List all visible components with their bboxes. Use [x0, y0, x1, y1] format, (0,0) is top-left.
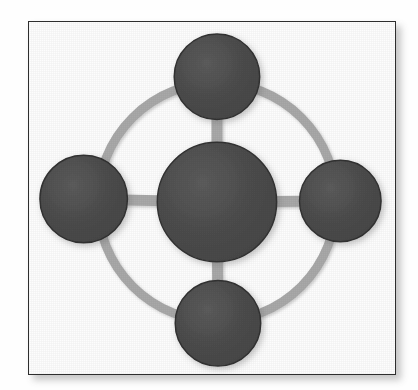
image-frame [28, 21, 396, 375]
node-right-circle[interactable] [300, 160, 382, 242]
diagram-stage [0, 0, 418, 390]
node-top[interactable] [174, 34, 260, 120]
node-right[interactable] [300, 160, 382, 242]
hub-node[interactable] [157, 142, 276, 261]
node-top-circle[interactable] [174, 34, 260, 120]
hub-node-circle[interactable] [157, 142, 276, 261]
node-bottom[interactable] [175, 281, 261, 367]
node-left-circle[interactable] [40, 155, 128, 243]
node-left[interactable] [40, 155, 128, 243]
node-bottom-circle[interactable] [175, 281, 261, 367]
hub-and-spoke-diagram [29, 22, 395, 374]
